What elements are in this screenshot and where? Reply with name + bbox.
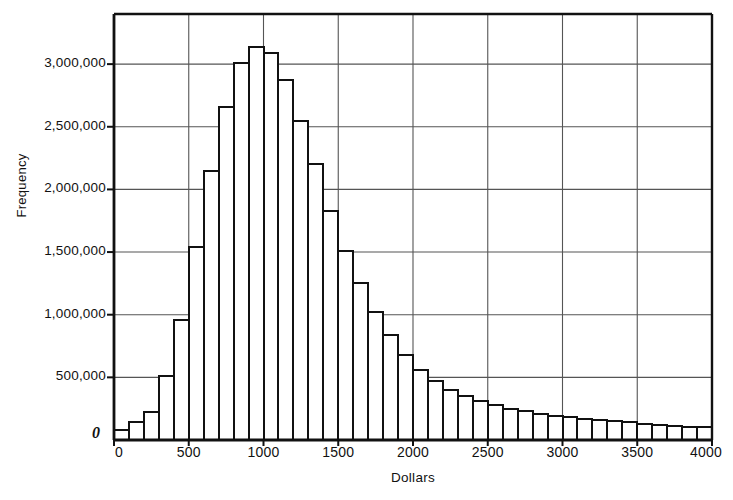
histogram-bar	[622, 422, 637, 440]
histogram-bar	[174, 320, 189, 440]
histogram-bar	[652, 425, 667, 440]
histogram-bar	[293, 121, 308, 441]
histogram-bar	[637, 424, 652, 440]
histogram-bar	[458, 396, 473, 440]
histogram-bar	[308, 164, 323, 440]
histogram-bar	[682, 427, 697, 440]
histogram-bar	[278, 80, 293, 440]
histogram-bar	[697, 427, 712, 440]
histogram-plot-area	[0, 0, 733, 500]
histogram-bar	[413, 370, 428, 440]
histogram-bar	[234, 63, 249, 440]
histogram-bar	[249, 47, 264, 440]
histogram-bar	[473, 401, 488, 440]
histogram-bar	[144, 412, 159, 440]
histogram-bar	[548, 416, 563, 440]
histogram-bar	[323, 211, 338, 440]
histogram-bar	[189, 247, 204, 440]
histogram-bar	[353, 283, 368, 440]
histogram-bar	[114, 430, 129, 440]
histogram-bar	[159, 376, 174, 440]
histogram-bar	[577, 419, 592, 440]
histogram-bar	[607, 421, 622, 440]
histogram-figure: Frequency Dollars 0 500,0001,000,0001,50…	[0, 0, 733, 500]
histogram-bar	[428, 381, 443, 440]
histogram-bar	[503, 409, 518, 440]
histogram-bar	[518, 411, 533, 440]
histogram-bar	[383, 335, 398, 440]
histogram-bar	[219, 107, 234, 440]
histogram-bar	[368, 312, 383, 440]
histogram-bar	[338, 251, 353, 440]
histogram-bar	[264, 53, 279, 440]
histogram-bar	[443, 390, 458, 440]
histogram-bar	[533, 414, 548, 440]
histogram-bar	[129, 422, 144, 440]
histogram-bar	[592, 420, 607, 440]
histogram-bar	[398, 355, 413, 440]
histogram-bar	[563, 417, 578, 440]
histogram-bar	[488, 405, 503, 440]
histogram-bar	[204, 171, 219, 440]
histogram-bar	[667, 426, 682, 440]
